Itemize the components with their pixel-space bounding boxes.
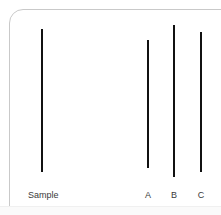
line-c[interactable] [200, 32, 202, 172]
line-a[interactable] [147, 40, 149, 168]
line-b[interactable] [173, 25, 175, 177]
label-c: C [198, 190, 205, 201]
label-sample: Sample [28, 190, 59, 201]
label-b: B [171, 190, 177, 201]
label-a: A [145, 190, 151, 201]
line-sample[interactable] [41, 29, 43, 172]
figure-canvas: Sample A B C [0, 0, 221, 215]
bottom-edge-band [0, 206, 221, 215]
